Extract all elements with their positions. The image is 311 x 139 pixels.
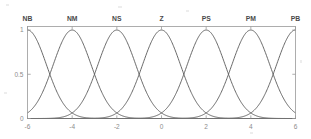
set-label-pb: PB [291, 15, 301, 22]
y-tick-label: 1 [20, 26, 24, 33]
set-label-ns: NS [112, 15, 122, 22]
set-label-nm: NM [67, 15, 78, 22]
set-label-nb: NB [23, 15, 33, 22]
set-label-pm: PM [246, 15, 257, 22]
x-tick-label: 0 [160, 123, 164, 130]
x-tick-label: 6 [294, 123, 298, 130]
membership-function-figure: -6-4-2024600.51 NBNMNSZPSPMPB [0, 0, 311, 139]
x-tick-label: -6 [25, 123, 31, 130]
set-label-ps: PS [202, 15, 212, 22]
y-tick-label: 0.5 [14, 71, 23, 78]
y-tick-label: 0 [20, 115, 24, 122]
x-tick-label: -2 [114, 123, 120, 130]
membership-function-chart: -6-4-2024600.51 NBNMNSZPSPMPB [0, 0, 311, 139]
x-tick-label: 4 [249, 123, 253, 130]
x-tick-label: -4 [69, 123, 75, 130]
set-label-z: Z [159, 15, 163, 22]
x-tick-label: 2 [204, 123, 208, 130]
